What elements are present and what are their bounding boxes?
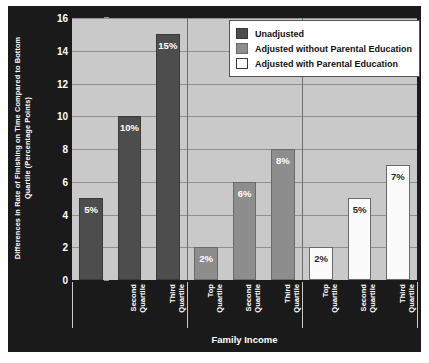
group-separator — [187, 18, 188, 280]
bar-value-label: 6% — [225, 188, 263, 199]
y-axis-title: Differences in Rate of Finishing on Time… — [13, 23, 41, 273]
y-axis-tick-label: 12 — [42, 78, 68, 89]
legend-item[interactable]: Adjusted without Parental Education — [236, 41, 412, 56]
x-axis-tick-labels: Second QuartileThird QuartileTop Quartil… — [72, 282, 417, 332]
legend-item-label: Unadjusted — [255, 29, 304, 39]
legend-item[interactable]: Adjusted with Parental Education — [236, 56, 412, 71]
y-axis-tick-labels: 0246810121416 — [42, 18, 68, 280]
bar[interactable] — [386, 165, 410, 280]
x-axis-tick-label: Second Quartile — [130, 284, 144, 330]
bar-value-label: 10% — [110, 122, 148, 133]
x-axis-tick-label: Second Quartile — [360, 284, 374, 330]
legend-item-label: Adjusted with Parental Education — [255, 59, 398, 69]
bar-value-label: 8% — [264, 155, 302, 166]
x-axis-group-separator — [417, 282, 418, 328]
gridline — [72, 18, 417, 19]
y-axis-tick-label: 16 — [42, 13, 68, 24]
y-axis-tick-label: 0 — [42, 275, 68, 286]
gridline — [72, 84, 417, 85]
x-axis-tick-label: Third Quartile — [169, 284, 183, 330]
bar-value-label: 5% — [340, 204, 378, 215]
y-axis-tick-label: 14 — [42, 45, 68, 56]
x-axis-tick-label: Third Quartile — [399, 284, 413, 330]
bar-value-label: 2% — [187, 253, 225, 264]
bar-value-label: 5% — [72, 204, 110, 215]
chart-figure: Differences in Rate of Finishing on Time… — [8, 6, 421, 352]
bar-value-label: 15% — [149, 40, 187, 51]
legend-item[interactable]: Unadjusted — [236, 26, 412, 41]
y-axis-tick-label: 10 — [42, 111, 68, 122]
legend-swatch-icon — [236, 28, 248, 39]
y-axis-tick-label: 4 — [42, 209, 68, 220]
legend-swatch-icon — [236, 43, 248, 54]
x-axis-tick-label: Third Quartile — [284, 284, 298, 330]
bar-value-label: 2% — [302, 253, 340, 264]
y-axis-tick-label: 8 — [42, 144, 68, 155]
bar[interactable] — [271, 149, 295, 280]
bar[interactable] — [118, 116, 142, 280]
legend-item-label: Adjusted without Parental Education — [255, 44, 412, 54]
y-axis-tick-label: 6 — [42, 176, 68, 187]
x-axis-tick-label: Second Quartile — [245, 284, 259, 330]
legend-swatch-icon — [236, 58, 248, 69]
x-axis-title: Family Income — [72, 334, 417, 345]
x-axis-tick-label: Top Quartile — [322, 284, 336, 330]
chart-legend: UnadjustedAdjusted without Parental Educ… — [229, 20, 420, 77]
x-axis-tick-label: Top Quartile — [207, 284, 221, 330]
bar[interactable] — [156, 34, 180, 280]
bar-value-label: 7% — [379, 171, 417, 182]
y-axis-tick-label: 2 — [42, 242, 68, 253]
